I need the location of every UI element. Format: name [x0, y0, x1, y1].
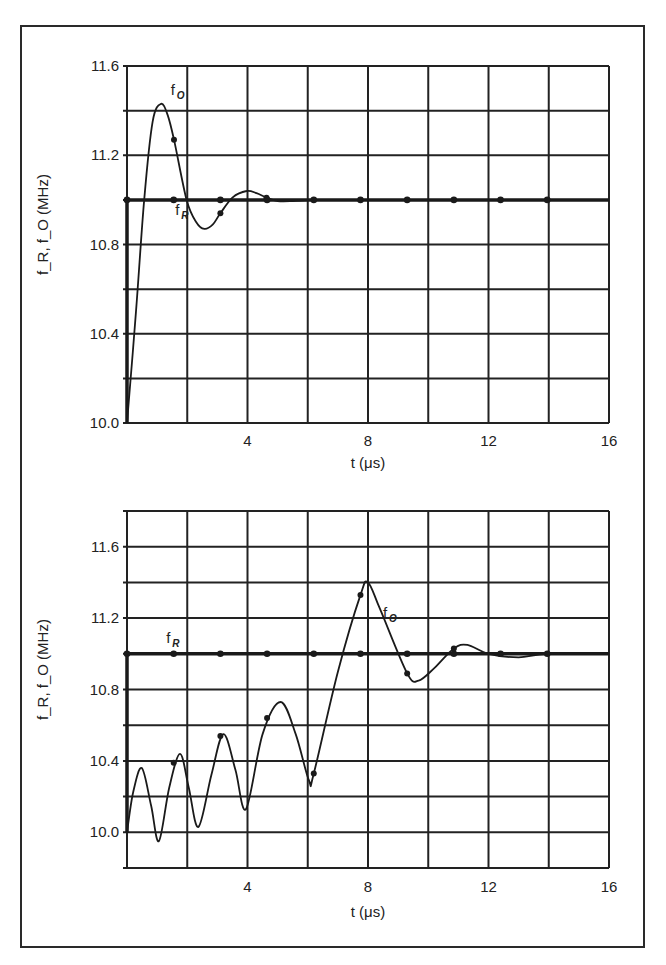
top-chart: 10.010.410.811.211.6481216t (μs)f_R, f_O… [34, 57, 617, 471]
y-tick-label: 11.2 [91, 609, 119, 626]
x-tick-label: 12 [480, 878, 497, 895]
bottom-chart: 10.010.410.811.211.6481216t (μs)f_R, f_O… [34, 511, 617, 920]
y-axis-label: f_R, f_O (MHz) [34, 174, 51, 275]
y-tick-label: 11.6 [91, 57, 119, 74]
data-marker [124, 651, 131, 658]
grid [123, 511, 609, 868]
series-label: f [175, 201, 180, 218]
y-tick-label: 10.8 [90, 236, 119, 253]
series-label: f [171, 81, 176, 98]
series-label-subscript: O [177, 90, 185, 101]
data-marker [217, 210, 223, 216]
y-tick-label: 11.2 [91, 146, 119, 163]
data-marker [171, 760, 177, 766]
data-marker [263, 195, 269, 201]
series-label: f [166, 629, 171, 646]
y-tick-label: 11.6 [91, 538, 119, 555]
data-marker [357, 651, 364, 658]
data-marker [217, 197, 224, 204]
y-tick-label: 10.0 [90, 414, 119, 431]
x-tick-label: 4 [243, 432, 251, 449]
data-marker [171, 137, 177, 143]
data-marker [217, 733, 223, 739]
series-label-subscript: O [389, 613, 397, 624]
x-axis-label: t (μs) [351, 454, 385, 471]
x-tick-label: 12 [480, 432, 497, 449]
data-marker [404, 670, 410, 676]
x-tick-label: 4 [243, 878, 251, 895]
x-tick-label: 8 [364, 432, 372, 449]
data-marker [217, 651, 224, 658]
x-tick-label: 16 [601, 432, 618, 449]
data-marker [311, 770, 317, 776]
figure-canvas: 10.010.410.811.211.6481216t (μs)f_R, f_O… [0, 0, 666, 965]
y-tick-label: 10.8 [90, 681, 119, 698]
data-marker [451, 645, 457, 651]
data-marker [404, 651, 411, 658]
y-axis-label: f_R, f_O (MHz) [34, 619, 51, 720]
x-axis-label: t (μs) [351, 903, 385, 920]
data-marker [357, 592, 363, 598]
data-marker [264, 715, 270, 721]
series-f-r: fR [124, 197, 609, 423]
y-tick-label: 10.0 [90, 823, 119, 840]
data-marker [124, 197, 131, 204]
data-marker [310, 651, 317, 658]
series-label-subscript: R [181, 210, 189, 221]
data-marker [264, 651, 271, 658]
x-tick-label: 16 [601, 878, 618, 895]
grid [123, 66, 609, 423]
x-tick-label: 8 [364, 878, 372, 895]
series-label-subscript: R [172, 638, 180, 649]
y-tick-label: 10.4 [90, 325, 119, 342]
series-f-r: fR [124, 629, 609, 832]
data-marker [170, 651, 177, 658]
y-tick-label: 10.4 [90, 752, 119, 769]
